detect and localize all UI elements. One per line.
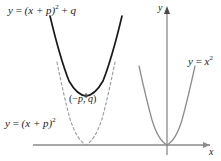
label-vertex-close-paren: ) bbox=[93, 93, 96, 104]
parabola-translation-figure: y = (x + p)2 + q y = (x + p)2 (−p, q) y … bbox=[0, 0, 221, 161]
y-axis-arrow-icon bbox=[164, 6, 170, 14]
y-axis-label: y bbox=[158, 3, 162, 13]
label-shifted-plus-q-equals: = bbox=[16, 4, 22, 16]
y-axis bbox=[164, 6, 170, 155]
label-shifted-plus-q-base: (x + p) bbox=[25, 4, 56, 16]
label-base-parabola-lhs: y bbox=[188, 55, 193, 67]
curve-shifted-parabola-solid bbox=[50, 16, 122, 96]
label-shifted-plus-q: y = (x + p)2 + q bbox=[8, 5, 76, 16]
label-base-parabola-equals: = bbox=[196, 55, 202, 67]
label-shifted-plus-q-plus: + bbox=[61, 4, 67, 16]
label-base-parabola: y = x2 bbox=[188, 56, 213, 67]
label-vertex-comma: , bbox=[83, 93, 86, 104]
label-shifted-exponent: 2 bbox=[52, 116, 55, 123]
label-shifted-plus-q-lhs: y bbox=[8, 4, 13, 16]
label-shifted-plus-q-exponent: 2 bbox=[55, 3, 58, 10]
label-shifted-equals: = bbox=[13, 117, 19, 129]
x-axis bbox=[33, 142, 210, 148]
label-base-parabola-exponent: 2 bbox=[210, 54, 213, 61]
label-shifted-base: (x + p) bbox=[22, 117, 53, 129]
label-shifted-lhs: y bbox=[5, 117, 10, 129]
x-axis-label: x bbox=[209, 147, 213, 157]
label-vertex-coordinates: (−p, q) bbox=[69, 94, 96, 104]
figure-canvas bbox=[0, 0, 221, 161]
label-shifted: y = (x + p)2 bbox=[5, 118, 56, 129]
label-shifted-plus-q-constant: q bbox=[70, 4, 76, 16]
